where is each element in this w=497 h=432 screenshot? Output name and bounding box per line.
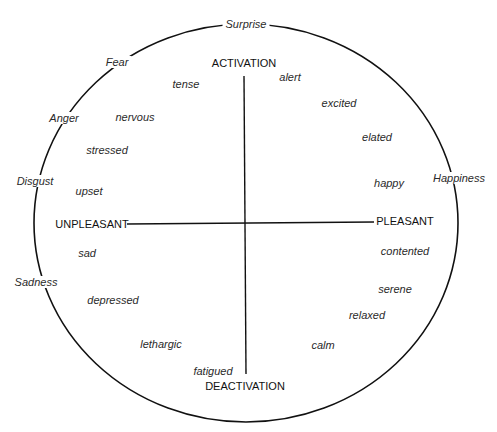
emotion-fear: Fear — [103, 56, 132, 68]
emotion-surprise: Surprise — [223, 18, 270, 30]
emotion-disgust: Disgust — [14, 175, 57, 187]
affect-word-elated: elated — [362, 131, 392, 143]
emotion-anger: Anger — [46, 112, 81, 124]
affect-word-lethargic: lethargic — [140, 338, 182, 350]
affect-word-calm: calm — [311, 339, 334, 351]
axis-label-pleasant: PLEASANT — [376, 215, 433, 227]
emotion-sadness: Sadness — [12, 276, 61, 288]
axis-label-deactivation: DEACTIVATION — [205, 380, 285, 392]
horizontal-axis-line — [127, 222, 374, 224]
affect-word-relaxed: relaxed — [349, 309, 385, 321]
affect-word-tense: tense — [173, 78, 200, 90]
affect-word-contented: contented — [381, 245, 429, 257]
affect-word-serene: serene — [378, 283, 412, 295]
affect-word-alert: alert — [279, 71, 300, 83]
affect-word-excited: excited — [322, 97, 357, 109]
affect-word-fatigued: fatigued — [193, 365, 232, 377]
affect-word-nervous: nervous — [115, 111, 154, 123]
vertical-axis-line — [244, 76, 246, 374]
affect-word-happy: happy — [374, 177, 404, 189]
affect-word-stressed: stressed — [86, 144, 128, 156]
axis-label-activation: ACTIVATION — [210, 57, 278, 69]
affect-word-depressed: depressed — [87, 294, 138, 306]
affect-word-upset: upset — [76, 185, 103, 197]
affect-word-sad: sad — [78, 247, 96, 259]
emotion-happiness: Happiness — [430, 172, 488, 184]
axis-label-unpleasant: UNPLEASANT — [55, 218, 128, 230]
